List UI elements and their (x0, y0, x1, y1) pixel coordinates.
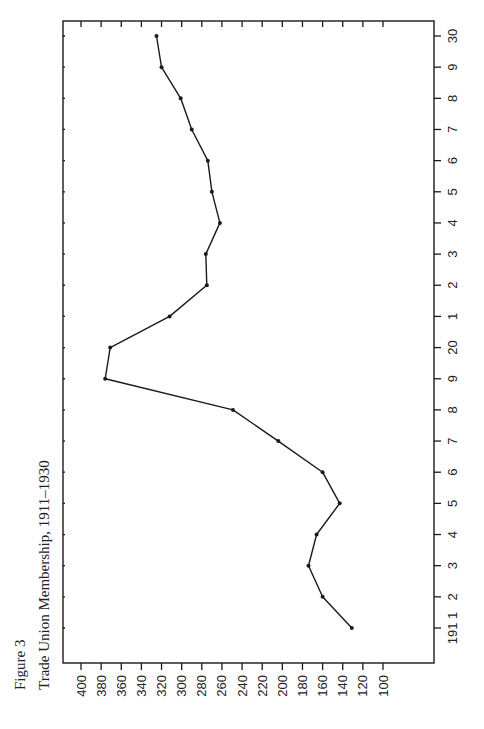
value-tick-label: 340 (134, 675, 149, 697)
data-point (350, 626, 354, 630)
data-point (103, 377, 107, 381)
data-point (307, 564, 311, 568)
figure-label: Figure 3 (12, 640, 28, 690)
value-tick-label: 140 (335, 675, 350, 697)
value-tick-label: 240 (235, 675, 250, 697)
value-tick-label: 160 (315, 675, 330, 697)
value-tick-label: 400 (74, 675, 89, 697)
data-point (160, 65, 164, 69)
year-tick-label: 30 (445, 29, 460, 43)
figure-title: Trade Union Membership, 1911–1930 (36, 460, 52, 690)
value-tick-label: 200 (275, 675, 290, 697)
data-point (218, 221, 222, 225)
value-tick-label: 220 (255, 675, 270, 697)
data-point (168, 314, 172, 318)
data-point (231, 408, 235, 412)
year-tick-label: 4 (445, 531, 460, 538)
figure-caption: Figure 3 Trade Union Membership, 1911–19… (12, 460, 52, 690)
year-tick-label: 3 (445, 562, 460, 569)
year-tick-label: 4 (445, 219, 460, 226)
plot-frame (63, 21, 434, 663)
year-tick-label: 1 (445, 313, 460, 320)
year-tick-label: 6 (445, 157, 460, 164)
year-tick-label: 20 (445, 340, 460, 354)
data-point (276, 439, 280, 443)
year-tick-label: 2 (445, 282, 460, 289)
data-point (205, 283, 209, 287)
value-tick-label: 100 (376, 675, 391, 697)
chart: 191 1234567892012345678930 4003803603403… (0, 0, 484, 729)
data-point (190, 127, 194, 131)
data-point (321, 595, 325, 599)
data-point (206, 159, 210, 163)
year-axis: 191 1234567892012345678930 (63, 29, 460, 645)
data-point (179, 96, 183, 100)
year-tick-label: 6 (445, 469, 460, 476)
value-tick-label: 320 (154, 675, 169, 697)
series-line (105, 36, 352, 628)
value-tick-label: 300 (174, 675, 189, 697)
value-tick-label: 180 (295, 675, 310, 697)
data-point (108, 346, 112, 350)
value-tick-label: 260 (214, 675, 229, 697)
data-point (315, 533, 319, 537)
year-tick-label: 8 (445, 95, 460, 102)
year-tick-label: 5 (445, 188, 460, 195)
year-tick-label: 2 (445, 593, 460, 600)
value-tick-label: 280 (194, 675, 209, 697)
year-tick-label: 9 (445, 64, 460, 71)
year-tick-label: 8 (445, 406, 460, 413)
year-tick-label: 7 (445, 126, 460, 133)
year-tick-label: 9 (445, 375, 460, 382)
value-tick-label: 360 (114, 675, 129, 697)
data-point (155, 34, 159, 38)
data-point (321, 470, 325, 474)
year-tick-label: 3 (445, 250, 460, 257)
data-point (338, 501, 342, 505)
year-tick-label: 191 1 (445, 612, 460, 645)
data-point (210, 190, 214, 194)
year-tick-label: 7 (445, 437, 460, 444)
value-tick-label: 120 (355, 675, 370, 697)
value-tick-label: 380 (94, 675, 109, 697)
value-axis: 4003803603403203002802602402202001801601… (74, 21, 391, 697)
year-tick-label: 5 (445, 500, 460, 507)
data-series (103, 34, 354, 630)
data-point (204, 252, 208, 256)
